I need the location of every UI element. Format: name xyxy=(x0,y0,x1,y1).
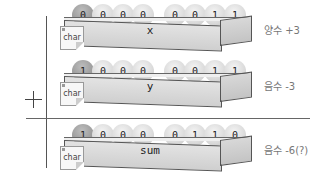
variable-row-sum: 1 0 0 0 0 1 1 0 sum char 음수 -6(?) xyxy=(60,124,320,184)
vertical-rule xyxy=(46,16,47,168)
memory-box-side xyxy=(220,16,252,46)
plus-operator-icon xyxy=(25,91,42,108)
variable-row-x: 0 0 0 0 0 0 1 1 x char 양수 +3 xyxy=(60,4,320,64)
value-annotation: 음수 -3 xyxy=(264,78,295,93)
variable-name: x xyxy=(120,24,180,37)
memory-box-side xyxy=(220,136,252,166)
memory-box-side xyxy=(220,72,252,102)
binary-addition-diagram: 0 0 0 0 0 0 1 1 x char 양수 +3 1 0 0 0 0 0… xyxy=(0,0,329,186)
bit: 0 xyxy=(184,4,206,26)
type-tag: char xyxy=(60,146,84,170)
bit: 1 xyxy=(184,124,206,146)
variable-name: sum xyxy=(120,144,180,157)
bit: 0 xyxy=(184,60,206,82)
variable-name: y xyxy=(120,80,180,93)
variable-row-y: 1 0 0 0 0 0 1 1 y char 음수 -3 xyxy=(60,60,320,120)
value-annotation: 양수 +3 xyxy=(264,22,300,37)
type-tag: char xyxy=(60,82,84,106)
type-tag: char xyxy=(60,26,84,50)
value-annotation: 음수 -6(?) xyxy=(264,142,308,157)
